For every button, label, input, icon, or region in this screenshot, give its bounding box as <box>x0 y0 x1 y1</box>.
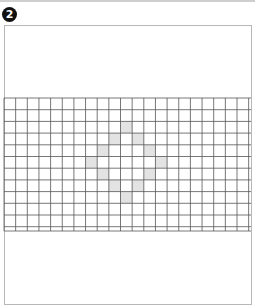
filled-cell <box>86 157 98 169</box>
filled-cell <box>97 168 109 180</box>
grid-lines <box>4 98 251 231</box>
filled-cell <box>155 157 167 169</box>
filled-cell <box>121 192 133 204</box>
filled-cell <box>132 133 144 145</box>
filled-cell <box>97 145 109 157</box>
filled-cell <box>144 145 156 157</box>
filled-cell <box>121 121 133 133</box>
filled-cells <box>86 121 168 203</box>
filled-cell <box>109 133 121 145</box>
filled-cell <box>132 180 144 192</box>
filled-cell <box>144 168 156 180</box>
pixel-grid <box>0 0 255 307</box>
filled-cell <box>109 180 121 192</box>
